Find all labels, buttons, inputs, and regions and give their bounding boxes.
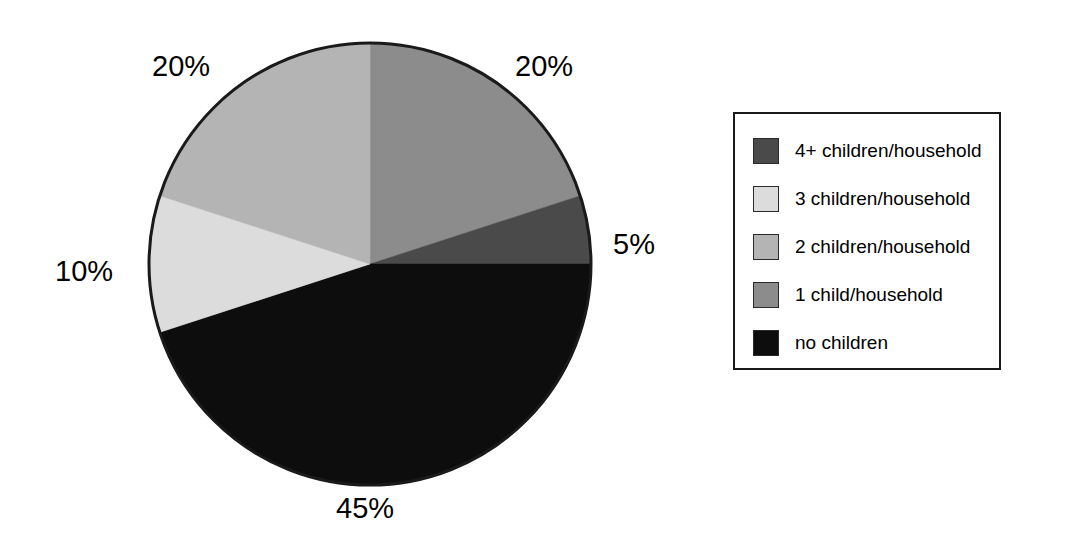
pie-slice-group xyxy=(149,43,591,485)
legend-box: 4+ children/household3 children/househol… xyxy=(733,112,1001,370)
legend-item-label: 3 children/household xyxy=(795,188,970,210)
legend-item: 2 children/household xyxy=(753,223,993,271)
legend-swatch-none xyxy=(753,330,779,356)
pie-chart-figure: 20% 20% 5% 10% 45% 4+ children/household… xyxy=(0,0,1080,560)
legend-item-label: no children xyxy=(795,332,888,354)
legend-swatch-3 xyxy=(753,186,779,212)
legend-item: 1 child/household xyxy=(753,271,993,319)
legend-item-label: 2 children/household xyxy=(795,236,970,258)
legend-item: no children xyxy=(753,319,993,367)
legend-item: 3 children/household xyxy=(753,175,993,223)
legend-item-label: 1 child/household xyxy=(795,284,943,306)
pie-label-no-children: 45% xyxy=(336,492,394,525)
legend-list: 4+ children/household3 children/househol… xyxy=(753,127,993,367)
pie-chart-svg xyxy=(146,40,594,488)
legend-swatch-2 xyxy=(753,234,779,260)
pie-chart xyxy=(146,40,594,488)
pie-label-2-children: 20% xyxy=(152,50,210,83)
pie-label-4plus-children: 5% xyxy=(613,228,655,261)
legend-item: 4+ children/household xyxy=(753,127,993,175)
pie-label-3-children: 10% xyxy=(55,255,113,288)
legend-item-label: 4+ children/household xyxy=(795,140,981,162)
legend-swatch-1 xyxy=(753,282,779,308)
legend-swatch-4plus xyxy=(753,138,779,164)
pie-label-1-child: 20% xyxy=(515,50,573,83)
